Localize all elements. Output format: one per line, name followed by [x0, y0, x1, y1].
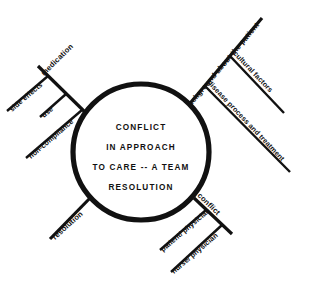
branch-resolution-label: resolution — [50, 209, 85, 241]
fishbone-diagram: medication side effects use non-complian… — [0, 0, 309, 294]
sub-cultural-factors-label: cultural factors — [232, 49, 275, 94]
fishbone-canvas: medication side effects use non-complian… — [0, 0, 309, 294]
sub-disease-process-label: disease process and treatment — [206, 78, 287, 163]
hub-line-3: TO CARE -- A TEAM — [92, 163, 189, 172]
sub-side-effects-label: side effects — [7, 80, 44, 113]
hub-line-2: IN APPROACH — [106, 143, 176, 152]
branch-resolution: resolution — [50, 195, 93, 241]
hub-circle — [73, 84, 209, 220]
hub-line-4: RESOLUTION — [108, 183, 173, 192]
branch-medication-label: medication — [39, 42, 75, 78]
hub-line-1: CONFLICT — [116, 123, 167, 132]
sub-non-compliance-label: non-compliance — [26, 117, 75, 161]
